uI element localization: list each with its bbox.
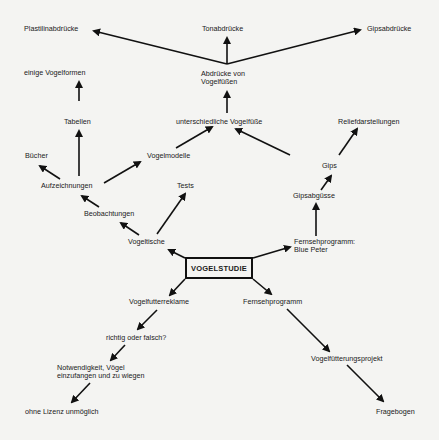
node-notwendigkeit: Notwendigkeit, Vögel einzufangen und zu … xyxy=(57,364,145,380)
central-topic-vogelstudie: VOGELSTUDIE xyxy=(185,257,253,279)
node-beobachtungen: Beobachtungen xyxy=(84,210,134,218)
arrow-gipsabguesse-gips xyxy=(321,176,331,190)
arrow-center-bluepeter xyxy=(253,247,290,258)
node-vogelfutterreklame: Vogelfutterreklame xyxy=(129,298,189,306)
node-ohne-lizenz-unmoeglich: ohne Lizenz unmöglich xyxy=(25,408,99,416)
node-vogeltische: Vogeltische xyxy=(128,238,165,246)
arrow-vogeltische-beobachtungen xyxy=(121,223,139,235)
node-richtig-oder-falsch: richtig oder falsch? xyxy=(106,334,166,342)
arrow-vogeltische-tests xyxy=(157,194,185,234)
node-fragebogen: Fragebogen xyxy=(376,408,415,416)
node-einige-vogelformen: einige Vogelformen xyxy=(24,69,86,77)
arrow-center-vogeltische xyxy=(169,250,185,258)
node-fernsehprogramm: Fernsehprogramm xyxy=(243,298,302,306)
arrow-abdruecke-gips xyxy=(227,30,360,64)
node-abdruecke-line2: Vogelfüßen xyxy=(201,78,245,86)
arrow-reklame-richtig xyxy=(138,310,157,329)
arrow-notwendigkeit-lizenz xyxy=(72,383,90,402)
node-aufzeichnungen: Aufzeichnungen xyxy=(41,182,93,190)
arrow-fernseh-vogelfuetterung xyxy=(287,309,329,351)
node-gipsabdruecke: Gipsabdrücke xyxy=(367,25,411,33)
arrow-aufzeichnungen-buecher xyxy=(40,166,60,179)
node-gipsabguesse: Gipsabgüsse xyxy=(293,192,335,200)
node-abdruecke-von-vogelfuessen: Abdrücke von Vogelfüßen xyxy=(201,70,245,86)
node-tonabdruecke: Tonabdrücke xyxy=(202,25,243,33)
node-bluepeter-line2: Blue Peter xyxy=(294,246,355,254)
node-unterschiedliche-vogelfuesse: unterschiedliche Vogelfüße xyxy=(176,118,262,126)
arrow-center-vogelfutterreklame xyxy=(170,279,185,295)
arrow-gips-relief xyxy=(339,129,357,155)
node-tabellen: Tabellen xyxy=(64,118,91,126)
node-reliefdarstellungen: Reliefdarstellungen xyxy=(338,118,400,126)
node-vogelfuetterungsprojekt: Vogelfütterungsprojekt xyxy=(311,355,383,363)
node-notwendigkeit-line2: einzufangen und zu wiegen xyxy=(57,372,145,380)
node-tests: Tests xyxy=(177,182,194,190)
node-gips: Gips xyxy=(322,162,337,170)
arrow-gips-unterschiedliche xyxy=(236,129,290,155)
arrow-vogelfuetterung-fragebogen xyxy=(347,365,383,401)
node-fernsehprogramm-blue-peter: Fernsehprogramm: Blue Peter xyxy=(294,238,355,254)
node-vogelmodelle: Vogelmodelle xyxy=(147,152,190,160)
node-buecher: Bücher xyxy=(25,152,48,160)
node-plastilinabdruecke: Plastilinabdrücke xyxy=(24,25,78,33)
arrow-richtig-notwendigkeit xyxy=(111,345,125,360)
arrow-vogelmodelle-unterschiedliche xyxy=(176,127,212,148)
arrow-beobachtungen-aufzeichnungen xyxy=(82,196,99,207)
arrow-center-fernsehprogramm xyxy=(253,279,271,294)
arrow-aufzeichnungen-vogelmodelle xyxy=(104,162,140,183)
arrow-abdruecke-plastilin xyxy=(94,31,227,64)
